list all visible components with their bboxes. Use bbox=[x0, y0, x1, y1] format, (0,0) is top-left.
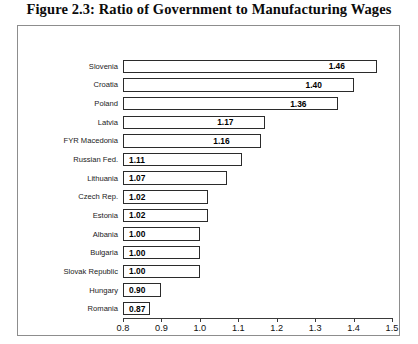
x-axis-line bbox=[123, 318, 392, 319]
bar-row: Croatia1.40 bbox=[123, 76, 392, 95]
category-label: Poland bbox=[94, 94, 123, 113]
bar-row: Bulgaria1.00 bbox=[123, 244, 392, 263]
bar-value-label: 1.00 bbox=[129, 227, 145, 240]
category-label: FYR Macedonia bbox=[64, 132, 123, 151]
bar-row: Estonia1.02 bbox=[123, 206, 392, 225]
bar-row: Hungary0.90 bbox=[123, 281, 392, 300]
category-label: Bulgaria bbox=[90, 244, 123, 263]
bar-value-label: 1.40 bbox=[306, 78, 322, 91]
category-label: Czech Rep. bbox=[78, 188, 123, 207]
x-axis-tick bbox=[238, 318, 239, 322]
x-axis-tick bbox=[354, 318, 355, 322]
page-title: Figure 2.3: Ratio of Government to Manuf… bbox=[0, 1, 418, 18]
x-axis-tick-label: 1.5 bbox=[386, 323, 399, 333]
bar-row: Russian Fed.1.11 bbox=[123, 150, 392, 169]
category-label: Lithuania bbox=[87, 169, 123, 188]
plot-area: Slovenia1.46Croatia1.40Poland1.36Latvia1… bbox=[123, 57, 392, 318]
bar-value-label: 1.16 bbox=[213, 134, 229, 147]
bar-row: FYR Macedonia1.16 bbox=[123, 132, 392, 151]
chart-frame: Slovenia1.46Croatia1.40Poland1.36Latvia1… bbox=[17, 25, 400, 336]
x-axis-tick bbox=[277, 318, 278, 322]
bar-value-label: 1.11 bbox=[129, 153, 145, 166]
bar-row: Czech Rep.1.02 bbox=[123, 188, 392, 207]
category-label: Hungary bbox=[89, 281, 123, 300]
x-axis-tick bbox=[200, 318, 201, 322]
category-label: Slovenia bbox=[89, 57, 123, 76]
bar-row: Albania1.00 bbox=[123, 225, 392, 244]
x-axis-tick-label: 1.4 bbox=[347, 323, 360, 333]
bar-value-label: 1.07 bbox=[129, 171, 145, 184]
bar-row: Slovenia1.46 bbox=[123, 57, 392, 76]
bar-value-label: 1.17 bbox=[217, 116, 233, 129]
bar-value-label: 1.02 bbox=[129, 209, 145, 222]
category-label: Latvia bbox=[98, 113, 123, 132]
bar-value-label: 0.90 bbox=[129, 283, 145, 296]
bar-row: Slovak Republic1.00 bbox=[123, 262, 392, 281]
category-label: Albania bbox=[93, 225, 123, 244]
x-axis-tick-label: 0.8 bbox=[117, 323, 130, 333]
x-axis-tick bbox=[392, 318, 393, 322]
category-label: Russian Fed. bbox=[73, 150, 123, 169]
bar-row: Lithuania1.07 bbox=[123, 169, 392, 188]
bar-row: Romania0.87 bbox=[123, 299, 392, 318]
bar-value-label: 1.46 bbox=[329, 60, 345, 73]
category-label: Slovak Republic bbox=[64, 262, 123, 281]
x-axis-tick-label: 1.1 bbox=[232, 323, 245, 333]
x-axis-tick bbox=[161, 318, 162, 322]
bar bbox=[123, 116, 265, 129]
x-axis-tick-label: 1.0 bbox=[193, 323, 206, 333]
x-axis-tick-label: 1.2 bbox=[270, 323, 283, 333]
bar-value-label: 0.87 bbox=[129, 302, 145, 315]
bar-value-label: 1.00 bbox=[129, 246, 145, 259]
x-axis-tick bbox=[315, 318, 316, 322]
category-label: Estonia bbox=[93, 206, 123, 225]
x-axis-tick-label: 0.9 bbox=[155, 323, 168, 333]
bar bbox=[123, 134, 261, 147]
bar-row: Latvia1.17 bbox=[123, 113, 392, 132]
category-label: Croatia bbox=[94, 76, 123, 95]
bar-value-label: 1.36 bbox=[290, 97, 306, 110]
bar-value-label: 1.00 bbox=[129, 265, 145, 278]
category-label: Romania bbox=[88, 299, 123, 318]
bar-value-label: 1.02 bbox=[129, 190, 145, 203]
x-axis-tick-label: 1.3 bbox=[309, 323, 322, 333]
bar-row: Poland1.36 bbox=[123, 94, 392, 113]
x-axis-tick bbox=[123, 318, 124, 322]
